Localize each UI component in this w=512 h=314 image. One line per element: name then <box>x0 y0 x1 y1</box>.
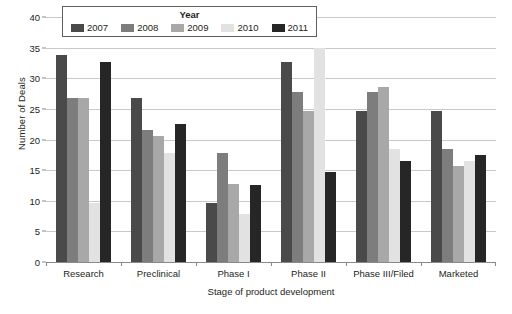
y-axis-tick-label: 20 <box>29 134 40 145</box>
x-axis-tick-mark <box>46 262 47 266</box>
bar-group <box>46 17 121 262</box>
bar-chart-figure: Number of Deals 0510152025303540 Researc… <box>0 0 512 314</box>
legend-item[interactable]: 2009 <box>171 22 208 33</box>
x-axis-tick-mark <box>346 262 347 266</box>
x-axis-tick-mark <box>121 262 122 266</box>
y-axis-tick-label: 5 <box>35 226 40 237</box>
y-axis-tick-label: 10 <box>29 195 40 206</box>
x-axis-tick-label: Phase II <box>291 268 326 279</box>
x-axis-tick-label: Phase I <box>217 268 249 279</box>
legend-swatch <box>272 24 285 32</box>
legend-label: 2007 <box>87 22 108 33</box>
bar[interactable] <box>228 184 239 262</box>
bar[interactable] <box>292 92 303 262</box>
legend-label: 2008 <box>137 22 158 33</box>
legend-label: 2011 <box>288 22 308 33</box>
legend-item[interactable]: 2007 <box>71 22 108 33</box>
y-axis-tick-label: 0 <box>35 257 40 268</box>
bar[interactable] <box>67 98 78 262</box>
legend-title: Year <box>71 9 308 21</box>
legend-item[interactable]: 2008 <box>121 22 158 33</box>
bar[interactable] <box>475 155 486 262</box>
plot-area: 0510152025303540 ResearchPreclinicalPhas… <box>46 17 496 262</box>
bar[interactable] <box>164 153 175 262</box>
bar[interactable] <box>356 111 367 262</box>
y-axis-tick-label: 15 <box>29 165 40 176</box>
y-axis-tick-label: 35 <box>29 42 40 53</box>
bar-group <box>196 17 271 262</box>
bar[interactable] <box>153 136 164 262</box>
bar[interactable] <box>464 161 475 262</box>
bar[interactable] <box>389 149 400 262</box>
x-axis-tick-mark <box>196 262 197 266</box>
bar[interactable] <box>442 149 453 262</box>
legend-label: 2010 <box>237 22 258 33</box>
bar[interactable] <box>325 172 336 262</box>
legend-swatch <box>71 24 84 32</box>
x-axis-tick-label: Preclinical <box>137 268 180 279</box>
bar[interactable] <box>175 124 186 262</box>
bar[interactable] <box>453 166 464 262</box>
bar-group <box>421 17 496 262</box>
bar[interactable] <box>314 48 325 262</box>
bar[interactable] <box>206 203 217 262</box>
legend-swatch <box>221 24 234 32</box>
bar[interactable] <box>281 62 292 262</box>
legend-label: 2009 <box>187 22 208 33</box>
y-axis-tick-label: 30 <box>29 73 40 84</box>
bar[interactable] <box>431 111 442 262</box>
legend-items: 20072008200920102011 <box>71 22 308 33</box>
bar[interactable] <box>142 130 153 262</box>
bar[interactable] <box>217 153 228 262</box>
bar[interactable] <box>303 111 314 262</box>
bar-group <box>271 17 346 262</box>
x-axis-tick-label: Marketed <box>439 268 479 279</box>
bar[interactable] <box>131 98 142 262</box>
y-axis-tick-label: 40 <box>29 12 40 23</box>
y-axis-title: Number of Deals <box>16 49 27 179</box>
bar[interactable] <box>56 55 67 262</box>
legend: Year 20072008200920102011 <box>62 6 317 37</box>
bar[interactable] <box>100 62 111 262</box>
x-axis-tick-mark <box>271 262 272 266</box>
bar[interactable] <box>239 214 250 262</box>
x-axis-tick-label: Phase III/Filed <box>353 268 414 279</box>
legend-swatch <box>121 24 134 32</box>
x-axis-tick-mark <box>421 262 422 266</box>
x-axis-tick-mark <box>495 262 496 266</box>
bar[interactable] <box>250 185 261 262</box>
y-axis-tick-label: 25 <box>29 103 40 114</box>
bar[interactable] <box>378 87 389 262</box>
bar[interactable] <box>367 92 378 262</box>
bar[interactable] <box>400 161 411 262</box>
x-axis-tick-label: Research <box>63 268 104 279</box>
legend-swatch <box>171 24 184 32</box>
bar[interactable] <box>78 98 89 262</box>
bar-group <box>121 17 196 262</box>
bar-group <box>346 17 421 262</box>
legend-item[interactable]: 2011 <box>272 22 308 33</box>
bar[interactable] <box>89 203 100 262</box>
legend-item[interactable]: 2010 <box>221 22 258 33</box>
x-axis-title: Stage of product development <box>46 286 496 297</box>
